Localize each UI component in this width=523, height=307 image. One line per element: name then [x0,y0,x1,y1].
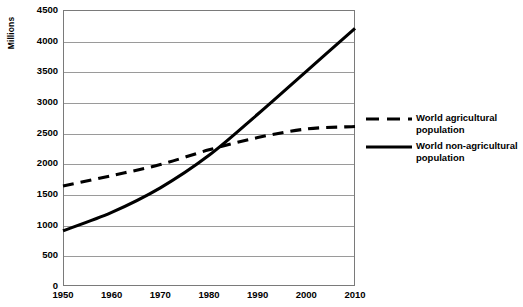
x-tick-label: 1990 [236,289,280,301]
y-tick-label: 1500 [12,189,58,199]
population-line-chart: Millions 0500100015002000250030003500400… [0,0,523,307]
legend-label: World agricultural population [416,112,518,135]
y-tick-label: 3000 [12,97,58,107]
x-tick-label: 2000 [284,289,328,301]
x-tick-label: 1950 [41,289,85,301]
x-tick-label: 2010 [333,289,377,301]
y-tick-label: 500 [12,250,58,260]
y-tick-label: 4000 [12,36,58,46]
series-layer [63,10,355,286]
y-tick-label: 1000 [12,220,58,230]
x-tick-label: 1960 [90,289,134,301]
y-tick-label: 3500 [12,66,58,76]
y-tick-label: 2500 [12,128,58,138]
y-axis-tick-labels: 050010001500200025003000350040004500 [8,10,58,286]
y-tick-label: 4500 [12,5,58,15]
x-axis-tick-labels: 1950196019701980199020002010 [63,289,355,305]
chart-legend: World agricultural populationWorld non-a… [366,112,523,168]
legend-label: World non-agricultural population [416,140,518,163]
legend-entry: World agricultural population [366,112,523,135]
y-tick-label: 2000 [12,158,58,168]
solid-line-swatch [366,145,412,149]
x-tick-label: 1970 [138,289,182,301]
legend-entry: World non-agricultural population [366,140,523,163]
dashed-line-swatch [366,117,412,121]
x-tick-label: 1980 [187,289,231,301]
